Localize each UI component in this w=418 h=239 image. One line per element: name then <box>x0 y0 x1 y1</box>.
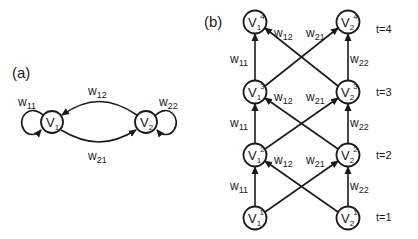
label-w21: w21 <box>87 149 107 165</box>
node-v1-t3: V13 <box>244 81 267 104</box>
label-w11: w11 <box>229 116 248 132</box>
label-w11: w11 <box>17 95 36 111</box>
label-w12: w12 <box>273 90 293 106</box>
node-v1-t4: V14 <box>244 11 267 34</box>
time-label-t3: t=3 <box>376 86 392 98</box>
node-v1: V1 <box>41 111 63 133</box>
label-w21: w21 <box>305 90 325 106</box>
panel-b: (b) V14 V24 <box>204 11 392 230</box>
time-label-t2: t=2 <box>376 149 392 161</box>
label-w22: w22 <box>349 179 369 195</box>
time-label-t1: t=1 <box>376 211 392 223</box>
node-v2-t3: V23 <box>337 81 360 104</box>
edges-t2-to-t3 <box>255 98 348 149</box>
node-v2-t4: V24 <box>337 11 360 34</box>
label-w21: w21 <box>305 26 325 42</box>
node-v2: V2 <box>135 111 157 133</box>
label-w12: w12 <box>273 153 293 169</box>
node-v2-t1: V21 <box>337 207 360 230</box>
edge-w22-self-loop <box>155 111 176 135</box>
panel-a-label: (a) <box>12 64 30 81</box>
network-diagram: (a) V1 V2 w11 w12 w21 w22 (b) <box>0 0 418 239</box>
edge-w12 <box>62 102 137 116</box>
label-w12: w12 <box>273 26 293 42</box>
label-w11: w11 <box>229 52 248 68</box>
node-v1-t1: V11 <box>244 207 267 230</box>
edge-w21 <box>61 130 136 142</box>
label-w22: w22 <box>349 116 369 132</box>
label-w22: w22 <box>349 52 369 68</box>
label-w22: w22 <box>158 95 178 111</box>
edges-t1-to-t2 <box>255 161 348 212</box>
panel-a: (a) V1 V2 w11 w12 w21 w22 <box>12 64 178 165</box>
label-w21: w21 <box>305 153 325 169</box>
time-label-t4: t=4 <box>376 23 392 35</box>
label-w12: w12 <box>87 84 107 100</box>
node-v2-t2: V22 <box>337 144 360 167</box>
panel-b-label: (b) <box>204 13 222 30</box>
label-w11: w11 <box>229 179 248 195</box>
node-v1-t2: V12 <box>244 144 267 167</box>
edges-t3-to-t4 <box>255 28 348 86</box>
